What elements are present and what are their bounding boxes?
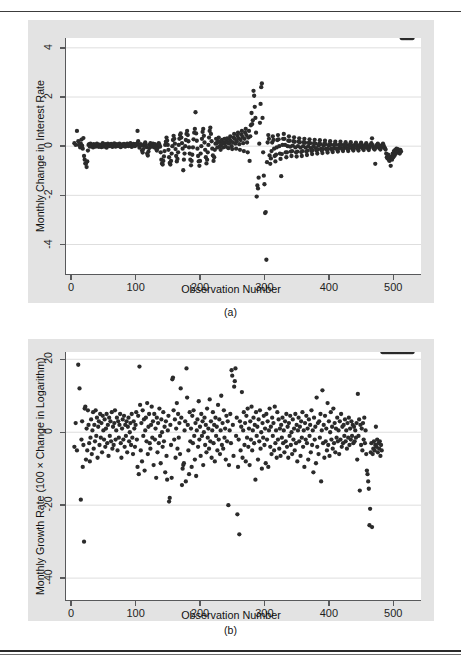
- x-tick-b-5: [393, 601, 394, 606]
- x-tick-a-0: [70, 275, 71, 280]
- x-tick-b-4: [328, 601, 329, 606]
- y-tick-a-4: [60, 244, 65, 245]
- y-tick-b-3: [60, 577, 65, 578]
- y-axis-line-a: [65, 38, 66, 274]
- y-tick-label-a-0: 4: [42, 35, 54, 59]
- figure-panel-b: 200-20-400100200300400500 Monthly Growth…: [28, 339, 434, 621]
- plot-area-a: [66, 38, 421, 274]
- figure-panel-a: 420-2-40100200300400500 Monthly Change i…: [28, 20, 434, 303]
- x-axis-title-a: Observation Number: [28, 283, 434, 295]
- x-tick-a-1: [135, 275, 136, 280]
- plot-area-b: [66, 352, 421, 600]
- y-tick-a-1: [60, 96, 65, 97]
- y-tick-b-1: [60, 432, 65, 433]
- top-rule: [0, 11, 461, 12]
- x-tick-b-0: [70, 601, 71, 606]
- y-axis-line-b: [65, 352, 66, 600]
- x-axis-title-b: Observation Number: [28, 609, 434, 621]
- y-tick-a-3: [60, 195, 65, 196]
- panel-caption-a: (a): [0, 306, 461, 318]
- y-axis-title-a: Monthly Change in Interest Rate: [34, 80, 46, 232]
- x-axis-line-a: [65, 274, 421, 275]
- x-tick-a-3: [264, 275, 265, 280]
- bottom-rule-thick: [0, 650, 461, 652]
- y-tick-b-0: [60, 359, 65, 360]
- y-axis-title-b: Monthly Growth Rate (100 × Change in Log…: [34, 357, 46, 595]
- x-axis-line-b: [65, 600, 421, 601]
- x-tick-b-1: [135, 601, 136, 606]
- x-tick-a-5: [393, 275, 394, 280]
- x-tick-b-3: [264, 601, 265, 606]
- x-tick-a-2: [199, 275, 200, 280]
- panel-caption-b: (b): [0, 624, 461, 636]
- y-tick-label-a-4: -4: [42, 232, 54, 256]
- y-tick-b-2: [60, 504, 65, 505]
- y-tick-a-2: [60, 145, 65, 146]
- y-tick-a-0: [60, 47, 65, 48]
- bottom-rule-thin: [0, 654, 461, 655]
- x-tick-b-2: [199, 601, 200, 606]
- scatter-plot-a: [66, 38, 421, 274]
- scatter-plot-b: [66, 352, 421, 600]
- x-tick-a-4: [328, 275, 329, 280]
